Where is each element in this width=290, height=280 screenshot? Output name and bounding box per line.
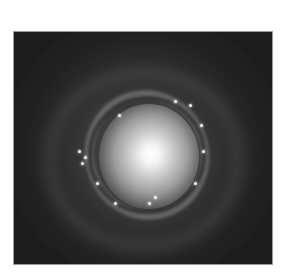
star-knot: [189, 104, 192, 107]
star-knot: [114, 202, 117, 205]
galaxy-photo: [13, 31, 273, 265]
star-knot: [194, 182, 197, 185]
star-knot: [200, 124, 203, 127]
star-knot: [154, 196, 157, 199]
star-knot: [202, 150, 205, 153]
galaxy-core: [99, 104, 199, 209]
star-knot: [148, 202, 151, 205]
star-knot: [118, 114, 121, 117]
star-knot: [81, 162, 84, 165]
star-knot: [174, 100, 177, 103]
star-knot: [96, 182, 99, 185]
star-knot: [84, 156, 87, 159]
star-knot: [78, 150, 81, 153]
